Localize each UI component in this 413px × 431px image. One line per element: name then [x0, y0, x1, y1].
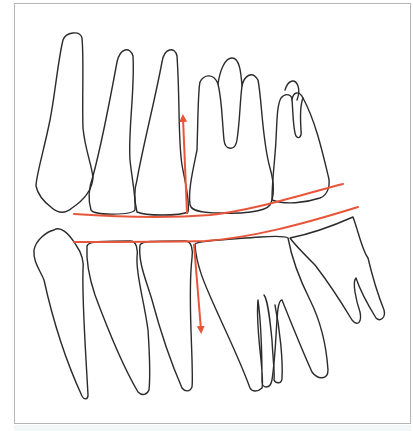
upper-first-molar-root-cleft — [218, 84, 242, 148]
arrow-up — [183, 118, 187, 214]
lower-second-molar-tooth — [290, 217, 384, 323]
lower-second-premolar-tooth — [140, 241, 193, 391]
arrows — [183, 118, 201, 330]
lower-first-premolar-tooth — [87, 241, 150, 394]
upper-first-molar-tooth — [190, 58, 274, 213]
upper-first-premolar-tooth — [89, 50, 135, 214]
lower-canine-tooth — [34, 229, 88, 399]
lower-first-molar-tooth — [195, 236, 328, 391]
upper-second-premolar-tooth — [135, 50, 189, 215]
upper-second-molar-root-cleft — [285, 81, 303, 138]
arrow-down — [194, 244, 201, 330]
upper-canine-tooth — [36, 33, 93, 212]
dental-occlusion-diagram — [0, 0, 413, 431]
lower-teeth — [34, 217, 384, 399]
lower-occlusal-curve — [74, 207, 358, 242]
